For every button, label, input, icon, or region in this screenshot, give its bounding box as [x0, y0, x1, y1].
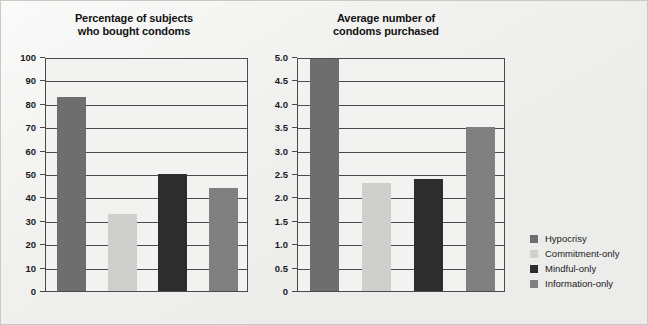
y-axis-tick-label: 30 [0, 217, 36, 227]
legend-label: Hypocrisy [545, 233, 587, 244]
bar-hypocrisy [57, 97, 86, 291]
y-axis-tick-label: 40 [0, 193, 36, 203]
y-axis-tick-label: 1.0 [248, 240, 288, 250]
legend-label: Information-only [545, 278, 613, 289]
y-axis-tick [292, 174, 297, 175]
y-axis-tick-label: 80 [0, 100, 36, 110]
figure-container: Percentage of subjects who bought condom… [0, 0, 648, 325]
y-axis-tick [292, 291, 297, 292]
plot-area-average: 00.51.01.52.02.53.03.54.04.55.0 [297, 58, 505, 292]
y-axis-tick [292, 197, 297, 198]
bar-information-only [466, 127, 495, 291]
y-axis-tick [292, 221, 297, 222]
legend-label: Mindful-only [545, 263, 596, 274]
y-axis-tick [40, 244, 45, 245]
y-axis-tick-label: 3.5 [248, 123, 288, 133]
y-axis-tick-label: 0.5 [248, 264, 288, 274]
y-axis-tick-label: 90 [0, 76, 36, 86]
y-axis-tick [292, 80, 297, 81]
legend: HypocrisyCommitment-onlyMindful-onlyInfo… [530, 231, 619, 291]
plot-frame [297, 58, 505, 292]
bar-hypocrisy [310, 59, 339, 291]
bar-mindful-only [158, 174, 187, 291]
y-axis-tick [292, 268, 297, 269]
y-axis-tick-label: 70 [0, 123, 36, 133]
chart-title-percentage: Percentage of subjects who bought condom… [0, 12, 268, 38]
y-axis-tick-label: 4.5 [248, 76, 288, 86]
y-axis-tick [40, 80, 45, 81]
legend-swatch-icon [530, 250, 538, 258]
y-axis-tick [40, 268, 45, 269]
y-axis-tick-label: 50 [0, 170, 36, 180]
chart-panel-average: Average number of condoms purchased 00.5… [252, 0, 520, 325]
plot-area-percentage: 0102030405060708090100 [45, 58, 248, 292]
y-axis-tick [40, 221, 45, 222]
bar-commitment-only [108, 214, 137, 291]
y-axis-tick [40, 151, 45, 152]
y-axis-tick-label: 100 [0, 53, 36, 63]
legend-item: Hypocrisy [530, 231, 619, 246]
legend-swatch-icon [530, 265, 538, 273]
bar-information-only [209, 188, 238, 291]
chart-title-average: Average number of condoms purchased [252, 12, 520, 38]
y-axis-tick-label: 4.0 [248, 100, 288, 110]
y-axis-tick [292, 104, 297, 105]
y-axis-tick [292, 244, 297, 245]
chart-panel-percentage: Percentage of subjects who bought condom… [0, 0, 268, 325]
y-axis-tick [40, 174, 45, 175]
legend-swatch-icon [530, 280, 538, 288]
legend-label: Commitment-only [545, 248, 619, 259]
y-axis-tick-label: 3.0 [248, 147, 288, 157]
y-axis-tick-label: 5.0 [248, 53, 288, 63]
y-axis-tick-label: 2.5 [248, 170, 288, 180]
y-axis-tick-label: 60 [0, 147, 36, 157]
y-axis-tick-label: 10 [0, 264, 36, 274]
y-axis-tick [292, 151, 297, 152]
y-axis-tick [292, 127, 297, 128]
y-axis-tick-label: 0 [248, 287, 288, 297]
legend-item: Information-only [530, 276, 619, 291]
gridline [46, 81, 247, 82]
y-axis-tick [40, 291, 45, 292]
y-axis-tick-label: 1.5 [248, 217, 288, 227]
bar-commitment-only [362, 183, 391, 291]
y-axis-tick [40, 57, 45, 58]
y-axis-tick-label: 2.0 [248, 193, 288, 203]
y-axis-tick [40, 104, 45, 105]
y-axis-tick-label: 0 [0, 287, 36, 297]
y-axis-tick [292, 57, 297, 58]
legend-item: Commitment-only [530, 246, 619, 261]
bar-mindful-only [414, 179, 443, 291]
y-axis-tick [40, 197, 45, 198]
y-axis-tick [40, 127, 45, 128]
legend-item: Mindful-only [530, 261, 619, 276]
legend-swatch-icon [530, 235, 538, 243]
y-axis-tick-label: 20 [0, 240, 36, 250]
plot-frame [45, 58, 248, 292]
